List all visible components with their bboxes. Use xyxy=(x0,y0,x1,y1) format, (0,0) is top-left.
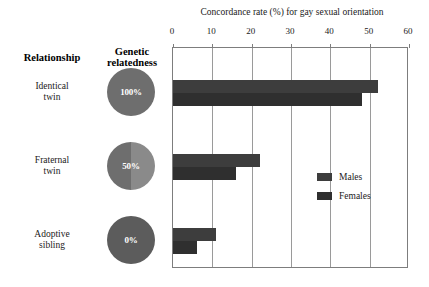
bar-females-2 xyxy=(173,167,236,180)
chart-title: Concordance rate (%) for gay sexual orie… xyxy=(172,7,412,17)
bar-males-2 xyxy=(173,154,260,167)
x-axis-tick-label: 10 xyxy=(207,26,216,36)
x-axis-tick-label: 50 xyxy=(364,26,373,36)
legend-swatch-females-icon xyxy=(317,192,332,200)
row-label-2: Fraternaltwin xyxy=(6,155,98,176)
legend-item-males: Males xyxy=(317,172,371,182)
x-axis-scale: 0102030405060 xyxy=(172,26,408,40)
pie-label-2: 50% xyxy=(107,142,155,190)
x-axis-tick xyxy=(212,44,213,48)
column-header-relationship: Relationship xyxy=(6,52,98,63)
bar-males-1 xyxy=(173,80,378,93)
pie-label-1: 100% xyxy=(107,68,155,116)
concordance-rate-figure: Concordance rate (%) for gay sexual orie… xyxy=(0,0,429,287)
bar-males-3 xyxy=(173,228,216,241)
legend-item-females: Females xyxy=(317,191,371,201)
plot-area xyxy=(172,47,408,268)
bar-females-3 xyxy=(173,241,197,254)
legend-label-males: Males xyxy=(339,172,362,182)
x-axis-tick xyxy=(173,44,174,48)
legend-label-females: Females xyxy=(339,191,371,201)
legend-swatch-males-icon xyxy=(317,173,332,181)
x-axis-tick xyxy=(409,44,410,48)
x-axis-tick-label: 40 xyxy=(325,26,334,36)
row-label-3: Adoptivesibling xyxy=(6,229,98,250)
x-axis-tick xyxy=(252,44,253,48)
row-label-1: Identicaltwin xyxy=(6,81,98,102)
legend: Males Females xyxy=(317,172,371,210)
x-axis-tick xyxy=(370,44,371,48)
x-axis-tick xyxy=(330,44,331,48)
pie-label-3: 0% xyxy=(107,216,155,264)
x-axis-tick-label: 60 xyxy=(404,26,413,36)
x-axis-tick-label: 0 xyxy=(170,26,175,36)
bar-females-1 xyxy=(173,93,362,106)
genetic-relatedness-pie-2: 50% xyxy=(107,142,155,190)
x-axis-tick-label: 30 xyxy=(286,26,295,36)
column-header-genetic-relatedness: Geneticrelatedness xyxy=(92,46,172,68)
x-axis-tick xyxy=(291,44,292,48)
x-axis-tick-label: 20 xyxy=(246,26,255,36)
genetic-relatedness-pie-3: 0% xyxy=(107,216,155,264)
genetic-relatedness-pie-1: 100% xyxy=(107,68,155,116)
